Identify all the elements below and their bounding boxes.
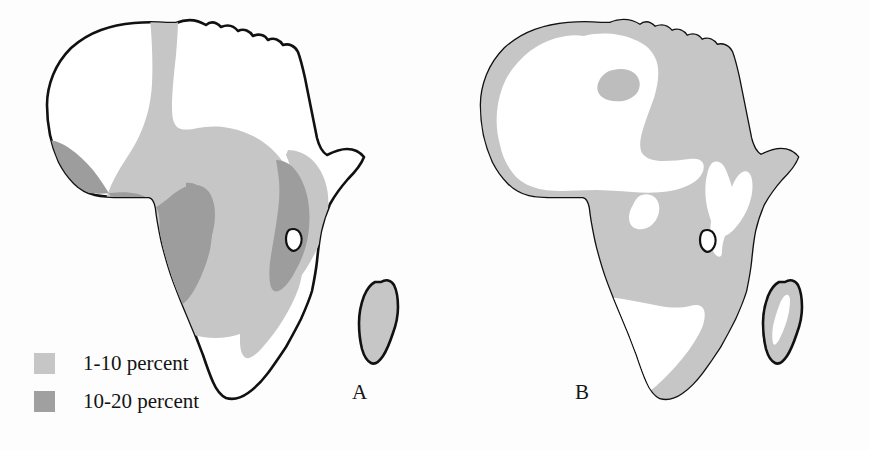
panel-letter-a: A: [352, 380, 368, 405]
legend-label-10-20: 10-20 percent: [83, 391, 199, 412]
shade-region-light-b: [464, 10, 844, 440]
madagascar-outline-a: [359, 280, 398, 363]
legend-swatch-light: [34, 353, 55, 374]
map-panel-b: [434, 0, 869, 450]
panel-letter-b: B: [575, 380, 590, 405]
lake-victoria-b: [700, 230, 716, 252]
map-panel-a: A 1-10 percent 10-20 percent: [0, 0, 435, 450]
africa-map-b: [434, 0, 869, 450]
madagascar-b: [763, 280, 802, 363]
legend-item-10-20: 10-20 percent: [34, 386, 199, 417]
lake-victoria-a: [286, 229, 302, 251]
legend-swatch-dark: [34, 391, 55, 412]
legend-label-1-10: 1-10 percent: [83, 353, 189, 374]
prevalence-legend: 1-10 percent 10-20 percent: [34, 348, 199, 424]
legend-item-1-10: 1-10 percent: [34, 348, 199, 379]
figure-canvas: A 1-10 percent 10-20 percent: [0, 0, 869, 450]
madagascar-a: [359, 280, 398, 363]
